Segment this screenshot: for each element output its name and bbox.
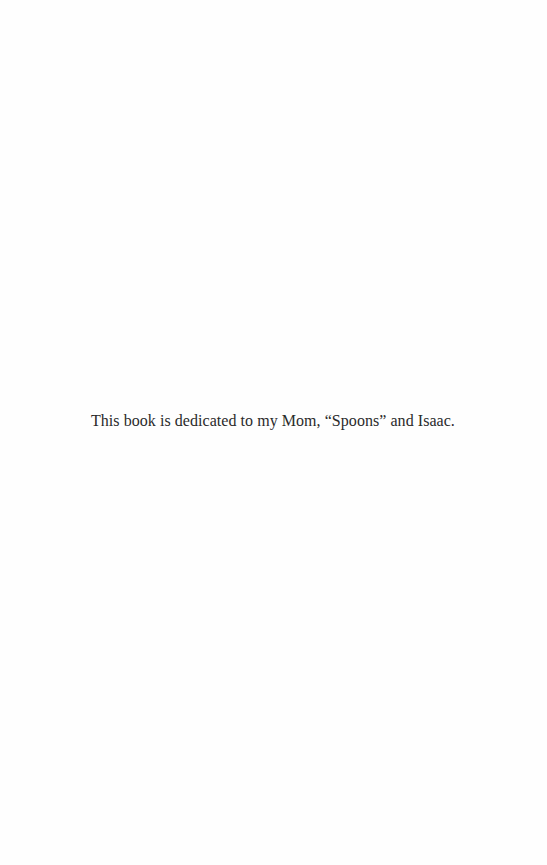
book-page: This book is dedicated to my Mom, “Spoon… — [0, 0, 547, 865]
dedication-text: This book is dedicated to my Mom, “Spoon… — [91, 412, 455, 430]
